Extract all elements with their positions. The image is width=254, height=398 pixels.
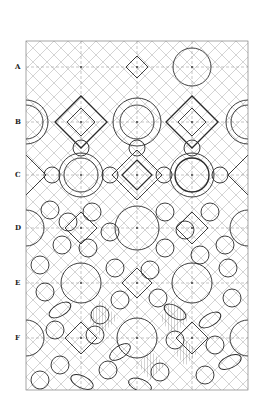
pattern-area [4, 41, 254, 395]
lattice-diagram [0, 0, 254, 398]
